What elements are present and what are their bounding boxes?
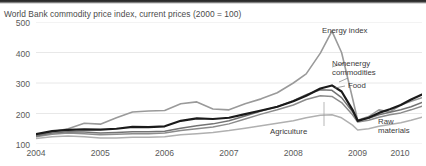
annotation-food: Food: [348, 82, 366, 91]
annotation-nonenergy-commodities: Nonenergy commodities: [332, 60, 376, 77]
x-axis-tick-2008: 2008: [273, 148, 313, 158]
x-axis-tick-2004: 2004: [16, 148, 56, 158]
annotation-energy-index: Energy index: [322, 27, 368, 36]
top-edge-band: [0, 0, 426, 4]
x-axis-tick-2010: 2010: [380, 148, 420, 158]
y-axis-tick-500: 500: [2, 18, 30, 28]
y-axis-tick-200: 200: [2, 110, 30, 120]
chart-title: World Bank commodity price index, curren…: [4, 9, 241, 19]
annotation-agriculture: Agriculture: [270, 128, 307, 137]
x-axis-tick-2007: 2007: [209, 148, 249, 158]
y-axis-tick-400: 400: [2, 49, 30, 59]
y-axis-tick-300: 300: [2, 79, 30, 89]
annotation-raw-materials: Raw materials: [378, 118, 410, 135]
x-axis-tick-2006: 2006: [145, 148, 185, 158]
x-axis-tick-2005: 2005: [80, 148, 120, 158]
x-axis-tick-2009: 2009: [338, 148, 378, 158]
